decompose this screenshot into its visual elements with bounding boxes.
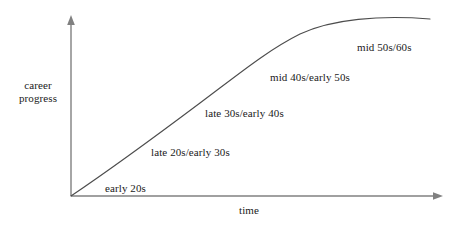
- y-axis-label-line2: progress: [10, 92, 66, 105]
- x-axis-label: time: [219, 204, 279, 217]
- x-axis-arrowhead-icon: [433, 192, 443, 200]
- figure-canvas: career progress time early 20s late 20s/…: [0, 0, 460, 233]
- annotation-early-20s: early 20s: [105, 182, 146, 195]
- annotation-mid-40s-early-50s: mid 40s/early 50s: [270, 71, 350, 84]
- y-axis-label: career progress: [10, 79, 66, 104]
- y-axis-arrowhead-icon: [67, 15, 75, 25]
- annotation-late-20s-early-30s: late 20s/early 30s: [151, 146, 230, 159]
- annotation-late-30s-early-40s: late 30s/early 40s: [205, 107, 284, 120]
- annotation-mid-50s-60s: mid 50s/60s: [357, 41, 412, 54]
- y-axis-label-line1: career: [10, 79, 66, 92]
